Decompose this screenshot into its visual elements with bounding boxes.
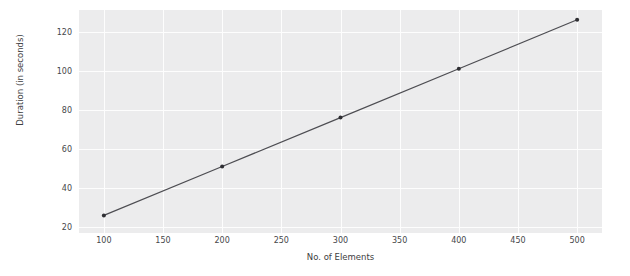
x-tick-label: 500 bbox=[570, 236, 585, 245]
y-tick-label: 100 bbox=[46, 66, 72, 75]
y-axis-title: Duration (in seconds) bbox=[15, 0, 25, 160]
data-point-marker bbox=[102, 213, 106, 217]
plot-panel bbox=[79, 10, 602, 233]
data-point-marker bbox=[339, 116, 343, 120]
y-tick-label: 80 bbox=[46, 105, 72, 114]
x-tick-label: 400 bbox=[451, 236, 466, 245]
x-tick-label: 150 bbox=[155, 236, 170, 245]
y-tick-label: 40 bbox=[46, 184, 72, 193]
chart-figure: 100150200250300350400450500 204060801001… bbox=[0, 0, 630, 276]
line-series-duration bbox=[79, 10, 602, 233]
x-axis-title: No. of Elements bbox=[79, 252, 602, 262]
x-tick-label: 350 bbox=[392, 236, 407, 245]
y-tick-label: 20 bbox=[46, 223, 72, 232]
x-tick-label: 100 bbox=[96, 236, 111, 245]
y-tick-label: 60 bbox=[46, 144, 72, 153]
data-point-marker bbox=[575, 18, 579, 22]
data-point-marker bbox=[220, 164, 224, 168]
x-tick-label: 450 bbox=[510, 236, 525, 245]
x-tick-label: 300 bbox=[333, 236, 348, 245]
y-tick-label: 120 bbox=[46, 27, 72, 36]
data-point-marker bbox=[457, 67, 461, 71]
y-axis-tick-labels: 20406080100120 bbox=[46, 0, 72, 276]
x-tick-label: 250 bbox=[274, 236, 289, 245]
x-tick-label: 200 bbox=[215, 236, 230, 245]
